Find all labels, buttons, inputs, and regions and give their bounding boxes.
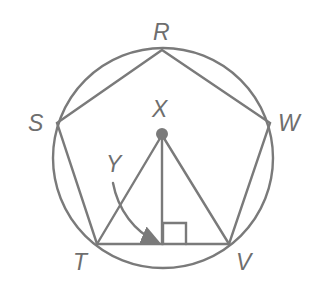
label-V: V bbox=[236, 249, 254, 275]
right-angle-marker bbox=[163, 223, 186, 244]
label-S: S bbox=[28, 110, 44, 136]
center-point-X bbox=[156, 128, 168, 140]
pentagon-diagram: R S W X Y T V bbox=[0, 0, 323, 290]
arrow-to-Y bbox=[113, 183, 156, 241]
label-R: R bbox=[153, 19, 170, 45]
label-Y: Y bbox=[106, 151, 123, 177]
label-W: W bbox=[278, 110, 302, 136]
segment-XV bbox=[162, 135, 229, 244]
label-X: X bbox=[151, 96, 169, 122]
label-T: T bbox=[73, 249, 89, 275]
